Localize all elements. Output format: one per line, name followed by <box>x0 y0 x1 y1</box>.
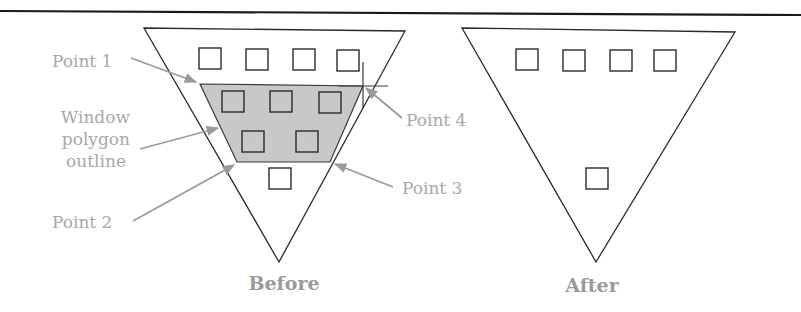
square-object <box>199 48 221 69</box>
square-object <box>269 168 291 189</box>
label-window-line1: Window <box>61 107 131 127</box>
after-panel: After <box>462 28 735 296</box>
caption-before: Before <box>248 272 319 294</box>
square-object <box>293 49 315 70</box>
label-point2: Point 2 <box>52 212 112 232</box>
point2-arrow <box>133 165 234 221</box>
square-object <box>563 50 585 71</box>
square-object <box>516 49 538 70</box>
polygon-window-diagram: Point 1 Window polygon outline Point 2 P… <box>0 0 801 312</box>
square-object <box>610 50 632 71</box>
window-arrow <box>140 128 218 149</box>
label-window-line2: polygon <box>62 129 130 149</box>
square-object <box>246 49 268 70</box>
after-triangle <box>462 28 735 262</box>
label-point1: Point 1 <box>52 51 112 71</box>
point4-arrow <box>366 88 402 118</box>
window-polygon-outline <box>200 84 363 162</box>
label-window-line3: outline <box>66 151 126 171</box>
before-panel: Point 1 Window polygon outline Point 2 P… <box>52 28 466 294</box>
square-object <box>654 50 676 71</box>
caption-after: After <box>564 274 619 296</box>
point3-arrow <box>335 164 393 187</box>
before-squares-top-row <box>199 48 359 71</box>
square-object <box>337 50 359 71</box>
label-point4: Point 4 <box>406 110 466 130</box>
label-point3: Point 3 <box>402 178 462 198</box>
square-object <box>586 168 608 189</box>
after-squares-top-row <box>516 49 676 71</box>
top-rule-divider <box>0 11 801 15</box>
